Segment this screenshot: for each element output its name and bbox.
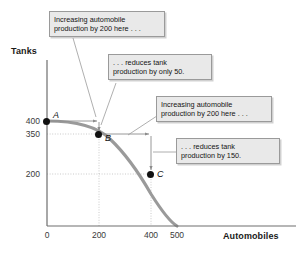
data-point-b <box>95 131 102 138</box>
callout-reduce-1-line1: . . . reduces tank <box>113 58 207 67</box>
x-tick-200: 200 <box>86 230 112 240</box>
callout-increase-1-line1: Increasing automobile <box>54 15 160 24</box>
callout-increase-2: Increasing automobile production by 200 … <box>156 96 272 122</box>
y-tick-350: 350 <box>14 129 40 139</box>
x-axis-title: Automobiles <box>223 231 279 241</box>
gridlines <box>47 134 151 226</box>
x-tick-400: 400 <box>138 230 164 240</box>
callout-reduce-1-line2: production by only 50. <box>113 67 207 76</box>
data-point-b-label: B <box>105 133 111 143</box>
callout-increase-1-line2: production by 200 here . . . <box>54 24 160 33</box>
y-tick-400: 400 <box>14 116 40 126</box>
x-tick-500: 500 <box>164 230 190 240</box>
data-point-a-label: A <box>53 110 59 120</box>
callout-increase-1: Increasing automobile production by 200 … <box>49 11 165 37</box>
y-tick-200: 200 <box>14 169 40 179</box>
callout-increase-2-line1: Increasing automobile <box>161 100 267 109</box>
callout-reduce-1: . . . reduces tank production by only 50… <box>108 54 212 80</box>
data-point-c <box>147 171 154 178</box>
callout-reduce-2-line2: production by 150. <box>181 151 275 160</box>
callout-increase-2-line2: production by 200 here . . . <box>161 109 267 118</box>
callout-reduce-2: . . . reduces tank production by 150. <box>176 138 280 164</box>
data-point-c-label: C <box>157 169 164 179</box>
chart-canvas <box>0 0 302 257</box>
x-tick-0: 0 <box>34 230 60 240</box>
measure-arrows <box>50 121 151 170</box>
ppf-chart-figure: Tanks Automobiles 400 350 200 0 200 400 … <box>0 0 302 257</box>
y-axis-title: Tanks <box>11 46 37 56</box>
data-point-a <box>43 118 50 125</box>
callout-reduce-2-line1: . . . reduces tank <box>181 142 275 151</box>
